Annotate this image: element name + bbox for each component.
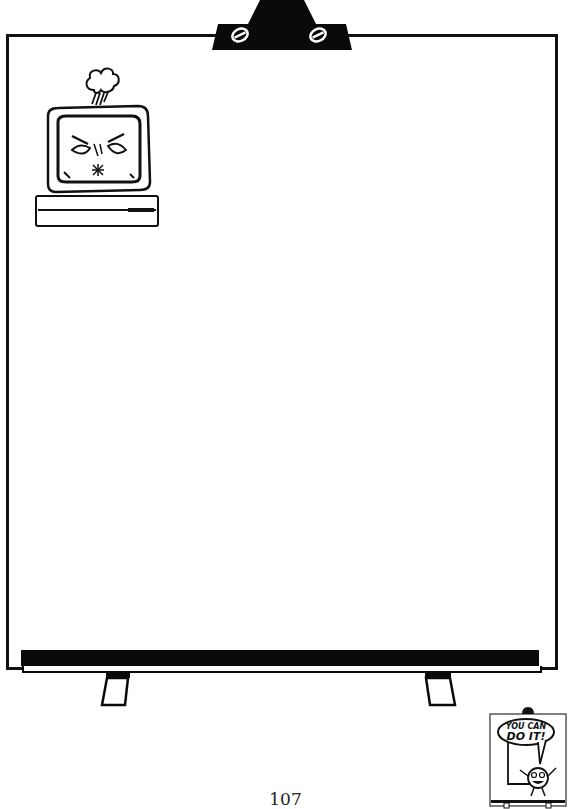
board-clip-icon [212,0,352,52]
sad-computer-monitor-icon [28,64,160,230]
flipchart-tray [21,650,539,666]
stand-leg-right-icon [422,672,460,708]
rain-cloud-icon [87,69,119,105]
page-number: 107 [0,789,571,809]
mascot-text-line2: DO IT! [507,730,546,743]
stand-leg-left-icon [98,672,132,708]
